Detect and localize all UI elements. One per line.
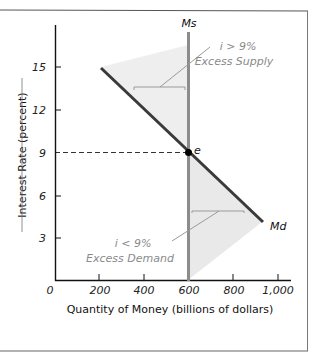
x-tick-200: 200	[90, 284, 111, 297]
excess-demand-label: Excess Demand	[86, 252, 175, 265]
y-tick-6: 6	[39, 190, 46, 203]
excess-supply-label: Excess Supply	[195, 55, 274, 68]
ms-label: Ms	[181, 17, 196, 30]
y-axis-title: Interest Rate (percent)	[16, 92, 29, 217]
frame-top-border	[0, 10, 308, 11]
equilibrium-label: e	[194, 144, 201, 157]
excess-demand-region	[188, 152, 262, 280]
excess-demand-condition: i < 9%	[115, 237, 152, 250]
x-tick-600: 600	[179, 284, 200, 297]
y-tick-3: 3	[39, 232, 46, 245]
equilibrium-point	[185, 149, 192, 156]
x-tick-400: 400	[134, 284, 155, 297]
y-tick-9: 9	[39, 147, 46, 160]
x-tick-1000: 1,000	[262, 284, 294, 297]
md-label: Md	[270, 220, 287, 233]
y-tick-12: 12	[32, 104, 46, 117]
x-tick-800: 800	[224, 284, 245, 297]
x-axis-title: Quantity of Money (billions of dollars)	[67, 303, 274, 316]
excess-supply-region	[101, 45, 188, 152]
money-market-chart: 15 12 9 6 3 0 200 400 600 800 1,000 Quan…	[0, 0, 322, 353]
x-tick-0: 0	[47, 284, 54, 297]
excess-supply-condition: i > 9%	[220, 40, 257, 53]
y-tick-15: 15	[32, 61, 46, 74]
